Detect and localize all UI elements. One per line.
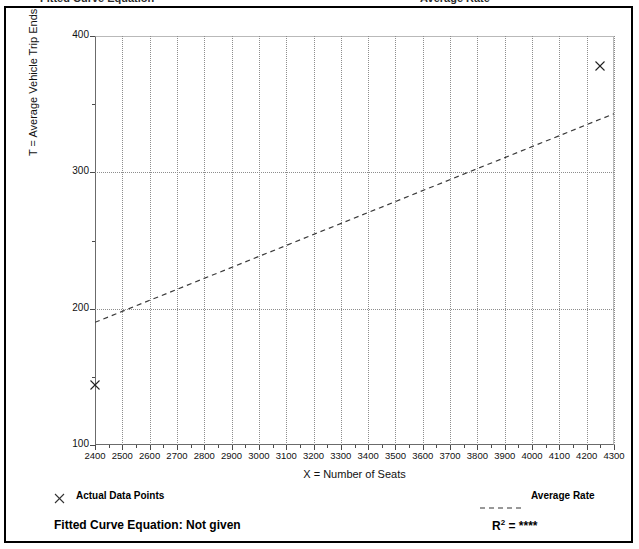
- x-gridline: [614, 36, 615, 445]
- legend-label-actual-data-points: Actual Data Points: [76, 490, 164, 501]
- y-axis-tick-label: 100: [59, 438, 89, 449]
- y-axis-tick-label: 200: [59, 302, 89, 313]
- x-axis-minor-tick: [218, 445, 219, 448]
- x-axis-minor-tick: [163, 445, 164, 448]
- x-axis-minor-tick: [191, 445, 192, 448]
- x-axis-minor-tick: [136, 445, 137, 448]
- r-squared-prefix: R: [492, 519, 501, 533]
- y-axis-title: T = Average Vehicle Trip Ends: [27, 9, 39, 156]
- x-axis-tick-label: 4300: [594, 450, 634, 461]
- fitted-curve-equation: Fitted Curve Equation: Not given: [54, 518, 241, 532]
- x-axis-minor-tick: [436, 445, 437, 448]
- x-axis-minor-tick: [464, 445, 465, 448]
- data-point-marker: [594, 60, 606, 72]
- dashed-line-icon: [480, 496, 524, 514]
- y-axis-tick: [90, 445, 95, 446]
- x-axis-title: X = Number of Seats: [95, 468, 614, 480]
- average-rate-line: [95, 36, 614, 445]
- x-axis-minor-tick: [382, 445, 383, 448]
- chart-frame: 2400250026002700280029003000310032003300…: [4, 6, 633, 543]
- x-axis-minor-tick: [355, 445, 356, 448]
- x-axis-minor-tick: [109, 445, 110, 448]
- r-squared-number: = ****: [508, 519, 537, 533]
- x-axis-minor-tick: [573, 445, 574, 448]
- x-axis-minor-tick: [546, 445, 547, 448]
- x-marker-icon: [54, 490, 65, 508]
- top-cropped-text-strip: Fitted Curve Equation Average Rate: [0, 0, 639, 5]
- x-axis-minor-tick: [245, 445, 246, 448]
- x-axis-minor-tick: [327, 445, 328, 448]
- legend-label-average-rate: Average Rate: [531, 490, 595, 501]
- data-point-marker: [89, 379, 101, 391]
- y-axis-tick-label: 400: [59, 29, 89, 40]
- x-axis-minor-tick: [518, 445, 519, 448]
- chart-legend: Actual Data Points Average Rate: [6, 486, 635, 514]
- equation-row: Fitted Curve Equation: Not given R2 = **…: [6, 516, 635, 542]
- x-axis-minor-tick: [409, 445, 410, 448]
- x-axis-minor-tick: [491, 445, 492, 448]
- r-squared-exponent: 2: [501, 518, 505, 527]
- x-axis-minor-tick: [600, 445, 601, 448]
- r-squared-value: R2 = ****: [492, 518, 538, 533]
- y-axis-tick-label: 300: [59, 165, 89, 176]
- x-axis-minor-tick: [300, 445, 301, 448]
- x-axis-minor-tick: [273, 445, 274, 448]
- top-cropped-right-text: Average Rate: [420, 0, 490, 4]
- top-cropped-left-text: Fitted Curve Equation: [40, 0, 154, 4]
- chart-plot: 2400250026002700280029003000310032003300…: [95, 36, 614, 445]
